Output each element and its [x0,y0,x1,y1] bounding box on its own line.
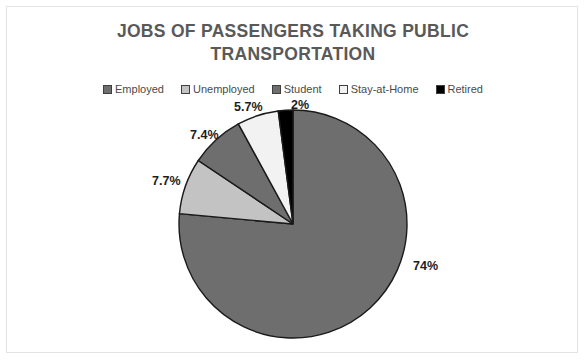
data-label-retired: 2% [291,98,309,112]
pie-chart-svg [0,0,586,361]
data-label-student: 7.4% [190,128,219,142]
data-label-stay-at-home: 5.7% [234,100,263,114]
data-label-unemployed: 7.7% [152,174,181,188]
data-label-employed: 74% [413,259,438,273]
pie-chart-area: 74% 7.7% 7.4% 5.7% 2% [0,0,586,361]
chart-screenshot: JOBS OF PASSENGERS TAKING PUBLIC TRANSPO… [0,0,586,361]
